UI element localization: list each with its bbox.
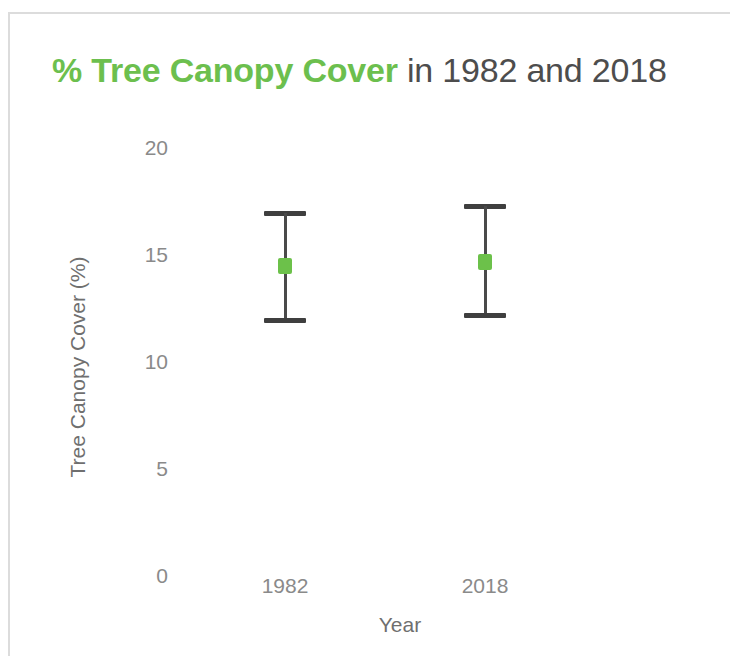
data-point-marker-2018 — [478, 254, 492, 270]
errorbar-cap-lower-1982 — [264, 318, 306, 323]
x-tick-1982: 1982 — [205, 574, 365, 598]
errorbar-2018 — [405, 0, 565, 656]
y-tick-20: 20 — [108, 137, 168, 158]
y-tick-0: 0 — [108, 565, 168, 586]
x-tick-2018: 2018 — [405, 574, 565, 598]
x-axis-label: Year — [210, 613, 590, 637]
y-tick-15: 15 — [108, 244, 168, 265]
chart-figure: % Tree Canopy Cover in 1982 and 2018 20 … — [0, 0, 730, 656]
plot-area: 20 15 10 5 0 Tree Canopy Cover (%) 1982 … — [0, 0, 730, 656]
y-tick-5: 5 — [108, 458, 168, 479]
y-axis-label: Tree Canopy Cover (%) — [66, 237, 90, 497]
y-axis-ticks: 20 15 10 5 0 — [108, 0, 168, 656]
errorbar-cap-lower-2018 — [464, 313, 506, 318]
data-point-marker-1982 — [278, 258, 292, 274]
errorbar-1982 — [205, 0, 365, 656]
y-tick-10: 10 — [108, 351, 168, 372]
